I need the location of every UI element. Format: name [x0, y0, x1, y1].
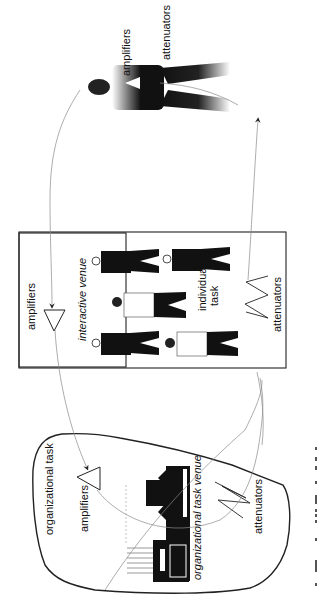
person-leg-lower [160, 90, 230, 112]
factory-icon [126, 466, 190, 582]
box-amplifier-triangle-icon [44, 310, 65, 331]
person-bottom-right-light [165, 331, 238, 356]
box-attenuators-label: attenuators [271, 276, 283, 332]
top-person-figure [88, 62, 230, 112]
org-attenuator-zigzag-icon [215, 482, 250, 518]
figure-caption-fragment [315, 447, 317, 586]
organizational-task-title: organizational task [43, 443, 55, 535]
top-amplifiers-label: amplifiers [120, 28, 132, 76]
arrow-box-to-org-amplifier [55, 330, 87, 468]
person-bottom-left [92, 331, 159, 355]
individual-task-label-line1: individual [196, 265, 208, 311]
organizational-task-venue-label: organizational task venue [191, 455, 203, 580]
interactive-venue-title: interactive venue [76, 258, 88, 341]
org-attenuators-label: attenuators [252, 478, 264, 534]
person-top-left [92, 249, 159, 273]
top-attenuators-label: attenuators [160, 4, 172, 60]
box-attenuator-zigzag-icon [245, 276, 268, 318]
individual-task-label-line2: task [208, 285, 220, 306]
org-amplifiers-label: amplifiers [78, 484, 90, 532]
arrow-box-attenuator-to-top [248, 120, 258, 280]
person-leg-upper [160, 62, 230, 84]
person-center-light [112, 292, 186, 318]
person-head-icon [88, 79, 110, 95]
diagram-canvas: amplifiers attenuators interactive venue… [0, 0, 321, 607]
box-amplifiers-label: amplifiers [25, 282, 37, 330]
